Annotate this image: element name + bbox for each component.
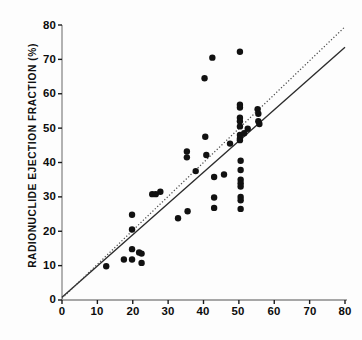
data-point xyxy=(184,154,190,160)
data-point xyxy=(255,110,261,116)
data-point xyxy=(129,212,135,218)
data-point xyxy=(237,123,243,129)
data-point xyxy=(237,137,243,143)
data-point xyxy=(237,104,243,110)
data-point xyxy=(103,263,109,269)
data-point xyxy=(138,260,144,266)
data-point xyxy=(237,183,243,189)
data-point xyxy=(237,49,243,55)
data-point xyxy=(175,215,181,221)
data-point xyxy=(237,158,243,164)
data-point xyxy=(201,75,207,81)
data-point xyxy=(245,126,251,132)
data-point xyxy=(237,206,243,212)
data-point xyxy=(256,121,262,127)
data-point xyxy=(221,171,227,177)
data-point xyxy=(138,250,144,256)
regression-line xyxy=(62,47,345,297)
data-point xyxy=(209,54,215,60)
data-point xyxy=(129,226,135,232)
data-point xyxy=(157,189,163,195)
data-point xyxy=(193,168,199,174)
plot-canvas xyxy=(0,0,362,340)
data-point xyxy=(129,246,135,252)
data-point xyxy=(202,134,208,140)
data-point xyxy=(184,208,190,214)
data-point xyxy=(211,194,217,200)
data-point xyxy=(203,152,209,158)
identity-line xyxy=(62,27,345,299)
data-point xyxy=(129,256,135,262)
data-point xyxy=(184,148,190,154)
scatter-plot-figure: RADIONUCLIDE EJECTION FRACTION (%) 80 70… xyxy=(0,0,362,340)
data-point xyxy=(237,197,243,203)
reference-lines xyxy=(62,27,345,299)
data-point xyxy=(121,256,127,262)
data-point xyxy=(237,167,243,173)
data-point xyxy=(227,140,233,146)
data-point xyxy=(211,205,217,211)
data-point xyxy=(211,174,217,180)
